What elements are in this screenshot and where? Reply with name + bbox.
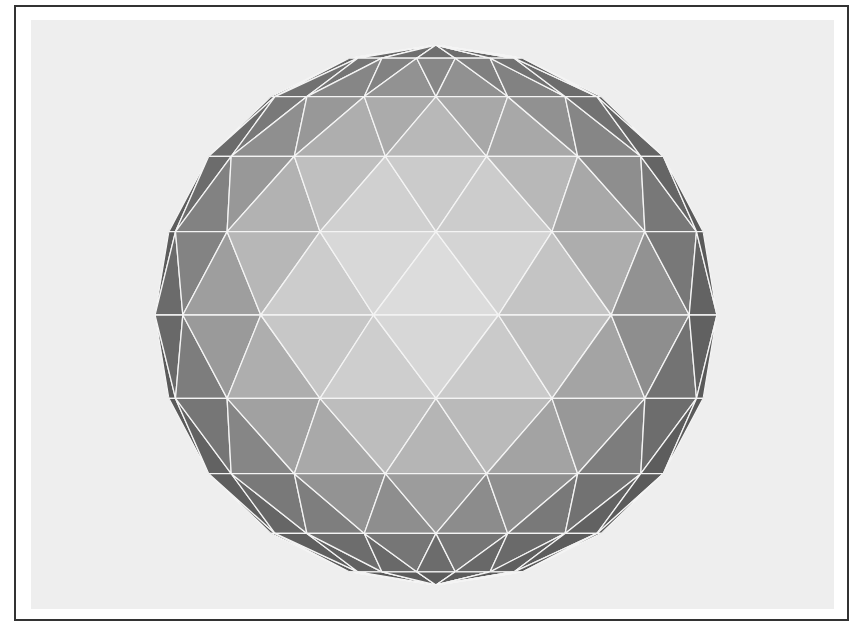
sphere-faces	[155, 45, 717, 585]
geodesic-sphere	[0, 0, 862, 636]
